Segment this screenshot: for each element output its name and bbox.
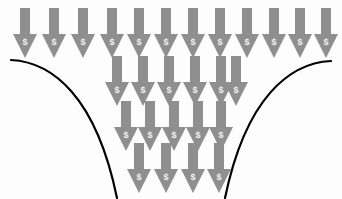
arrow-shaft <box>134 143 144 169</box>
money-arrow: $ <box>105 56 129 106</box>
arrow-shaft <box>145 101 155 127</box>
money-arrow: $ <box>71 8 95 58</box>
money-arrow: $ <box>288 8 312 58</box>
arrow-shaft <box>138 56 148 82</box>
arrow-shaft <box>269 8 279 34</box>
arrow-head <box>181 169 205 193</box>
arrow-head <box>71 34 95 58</box>
money-arrow: $ <box>127 8 151 58</box>
arrow-head <box>154 169 178 193</box>
money-arrow: $ <box>154 8 178 58</box>
arrow-head <box>13 34 37 58</box>
arrow-shaft <box>161 143 171 169</box>
money-arrow: $ <box>154 143 178 193</box>
money-arrow: $ <box>262 8 286 58</box>
left-funnel-wall-path <box>11 60 117 198</box>
arrow-head <box>235 34 259 58</box>
money-arrow: $ <box>13 8 37 58</box>
arrow-shaft <box>295 8 305 34</box>
money-arrow: $ <box>42 8 66 58</box>
money-arrow: $ <box>183 56 207 106</box>
arrow-shaft <box>321 8 331 34</box>
arrow-shaft <box>164 56 174 82</box>
arrow-shaft <box>169 101 179 127</box>
money-arrow: $ <box>314 8 338 58</box>
arrow-head <box>314 34 338 58</box>
arrow-head <box>42 34 66 58</box>
arrow-shaft <box>188 143 198 169</box>
money-arrow: $ <box>208 8 232 58</box>
arrow-head <box>127 34 151 58</box>
money-arrow: $ <box>127 143 151 193</box>
arrow-head <box>127 169 151 193</box>
money-arrow: $ <box>235 8 259 58</box>
arrow-shaft <box>231 56 241 82</box>
arrow-shaft <box>161 8 171 34</box>
row-1: $$$$$$$$$$$$ <box>13 8 338 58</box>
row-2: $$$$$$ <box>105 56 248 106</box>
money-arrow: $ <box>181 143 205 193</box>
arrow-shaft <box>78 8 88 34</box>
arrow-shaft <box>107 8 117 34</box>
arrow-head <box>224 82 248 106</box>
row-4: $$$$ <box>127 143 231 193</box>
money-arrow: $ <box>209 56 233 106</box>
arrow-head <box>288 34 312 58</box>
money-arrow: $ <box>224 56 248 106</box>
money-arrow: $ <box>131 56 155 106</box>
arrow-shaft <box>188 8 198 34</box>
arrow-head <box>181 34 205 58</box>
arrow-shaft <box>190 56 200 82</box>
arrow-shaft <box>216 56 226 82</box>
arrow-shaft <box>242 8 252 34</box>
funnel-diagram: $$$$$$$$$$$$$$$$$$$$$$$$$$$ <box>0 0 342 199</box>
money-arrows-layer: $$$$$$$$$$$$$$$$$$$$$$$$$$$ <box>13 8 338 193</box>
arrow-head <box>100 34 124 58</box>
arrow-shaft <box>216 101 226 127</box>
arrow-shaft <box>215 8 225 34</box>
arrow-shaft <box>134 8 144 34</box>
arrow-head <box>154 34 178 58</box>
arrow-shaft <box>112 56 122 82</box>
arrow-shaft <box>214 143 224 169</box>
arrow-shaft <box>193 101 203 127</box>
arrow-head <box>208 34 232 58</box>
arrow-shaft <box>121 101 131 127</box>
arrow-shaft <box>49 8 59 34</box>
illustration-canvas: $$$$$$$$$$$$$$$$$$$$$$$$$$$ <box>0 0 342 199</box>
arrow-shaft <box>20 8 30 34</box>
arrow-head <box>262 34 286 58</box>
money-arrow: $ <box>100 8 124 58</box>
money-arrow: $ <box>181 8 205 58</box>
money-arrow: $ <box>157 56 181 106</box>
